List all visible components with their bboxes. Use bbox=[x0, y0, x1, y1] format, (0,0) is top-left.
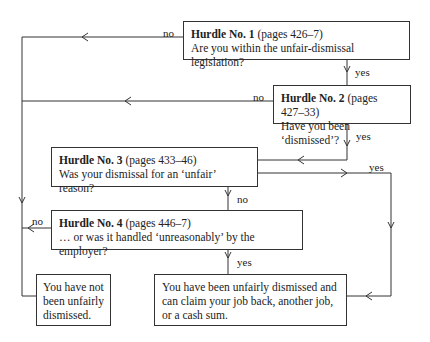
hurdle-3-box: Hurdle No. 3 (pages 433–46) Was your dis… bbox=[51, 147, 258, 187]
outcome-dismissed-box: You have been unfairly dismissed and can… bbox=[154, 274, 347, 326]
edge-label-h2-yes: yes bbox=[356, 130, 371, 142]
hurdle-1-pages: (pages 426–7) bbox=[257, 28, 322, 40]
edge-label-h3-no: no bbox=[237, 193, 248, 205]
edge-label-h4-no: no bbox=[32, 215, 43, 227]
edge-label-h1-no: no bbox=[163, 27, 174, 39]
outcome-not-dismissed-box: You have not been unfairly dismissed. bbox=[36, 274, 111, 326]
edge-label-h4-yes: yes bbox=[237, 256, 252, 268]
hurdle-4-pages: (pages 446–7) bbox=[125, 217, 190, 229]
outcome-dismissed-text: You have been unfairly dismissed and can… bbox=[162, 281, 337, 321]
hurdle-2-box: Hurdle No. 2 (pages 427–33) Have you bee… bbox=[273, 85, 411, 124]
edge-label-h3-yes: yes bbox=[369, 161, 384, 173]
edge-label-h1-yes: yes bbox=[355, 66, 370, 78]
hurdle-4-box: Hurdle No. 4 (pages 446–7) … or was it h… bbox=[51, 210, 303, 250]
hurdle-3-title: Hurdle No. 3 bbox=[59, 154, 123, 166]
edge-label-h2-no: no bbox=[253, 91, 264, 103]
outcome-not-dismissed-text: You have not been unfairly dismissed. bbox=[43, 281, 104, 321]
hurdle-1-box: Hurdle No. 1 (pages 426–7) Are you withi… bbox=[183, 21, 410, 60]
hurdle-1-title: Hurdle No. 1 bbox=[191, 28, 255, 40]
hurdle-2-title: Hurdle No. 2 bbox=[281, 92, 345, 104]
hurdle-3-pages: (pages 433–46) bbox=[125, 154, 196, 166]
hurdle-4-title: Hurdle No. 4 bbox=[59, 217, 123, 229]
